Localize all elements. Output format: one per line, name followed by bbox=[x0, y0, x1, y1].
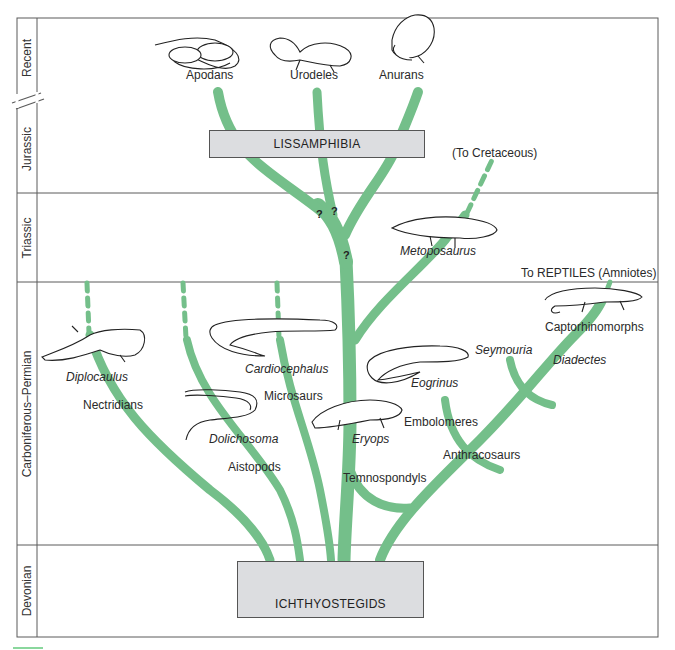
label-microsaurs: Microsaurs bbox=[264, 389, 323, 403]
label-cardiocephalus: Cardiocephalus bbox=[245, 362, 328, 376]
label-embolomeres: Embolomeres bbox=[404, 415, 478, 429]
period-label: Triassic bbox=[20, 217, 34, 258]
label-diadectes: Diadectes bbox=[553, 353, 606, 367]
period-carboniferous-permian: Carboniferous–Permian bbox=[17, 282, 37, 545]
uncertain-mark: ? bbox=[316, 208, 323, 220]
label-apodans: Apodans bbox=[186, 68, 233, 82]
ichthyostegids-box: ICHTHYOSTEGIDS bbox=[237, 561, 424, 618]
label-anurans: Anurans bbox=[379, 68, 424, 82]
period-devonian: Devonian bbox=[17, 545, 37, 637]
period-jurassic: Jurassic bbox=[17, 105, 37, 193]
green-mark bbox=[13, 647, 43, 649]
period-label: Recent bbox=[20, 39, 34, 77]
label-seymouria: Seymouria bbox=[475, 343, 532, 357]
period-label: Carboniferous–Permian bbox=[20, 350, 34, 477]
label-temnospondyls: Temnospondyls bbox=[343, 471, 426, 485]
label-captorhinomorphs: Captorhinomorphs bbox=[545, 320, 644, 334]
period-recent: Recent bbox=[17, 18, 37, 98]
period-triassic: Triassic bbox=[17, 193, 37, 282]
uncertain-mark: ? bbox=[331, 205, 338, 217]
period-label: Devonian bbox=[20, 566, 34, 617]
to-cretaceous-note: (To Cretaceous) bbox=[452, 146, 537, 160]
lissamphibia-box: LISSAMPHIBIA bbox=[209, 130, 425, 158]
label-nectridians: Nectridians bbox=[83, 398, 143, 412]
label-eryops: Eryops bbox=[352, 432, 389, 446]
ichthyostegids-label: ICHTHYOSTEGIDS bbox=[238, 597, 423, 611]
label-anthracosaurs: Anthracosaurs bbox=[443, 448, 520, 462]
period-label: Jurassic bbox=[20, 127, 34, 171]
label-aistopods: Aistopods bbox=[228, 460, 281, 474]
apodan-illustration bbox=[155, 38, 239, 69]
eryops-illustration bbox=[312, 400, 402, 430]
label-metoposaurus: Metoposaurus bbox=[400, 244, 476, 258]
anuran-illustration bbox=[392, 15, 434, 63]
phylogeny-diagram: Recent Jurassic Triassic Carboniferous–P… bbox=[0, 0, 675, 650]
cardiocephalus-illustration bbox=[210, 319, 337, 356]
label-eogrinus: Eogrinus bbox=[411, 376, 458, 390]
label-dolichosoma: Dolichosoma bbox=[209, 432, 278, 446]
to-reptiles-note: To REPTILES (Amniotes) bbox=[521, 266, 656, 280]
label-diplocaulus: Diplocaulus bbox=[66, 370, 128, 384]
urodele-illustration bbox=[270, 38, 351, 72]
label-urodeles: Urodeles bbox=[290, 68, 338, 82]
lissamphibia-label: LISSAMPHIBIA bbox=[274, 137, 361, 151]
branches bbox=[87, 92, 610, 560]
uncertain-mark: ? bbox=[343, 249, 350, 261]
